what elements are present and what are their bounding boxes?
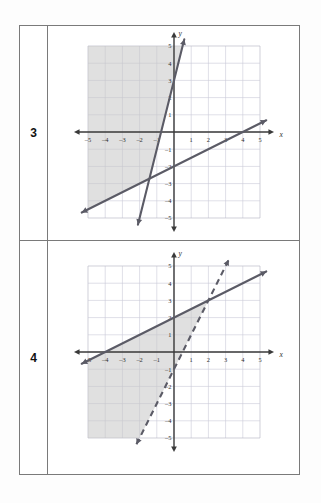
- x-tick-label: –4: [101, 356, 109, 363]
- y-tick-label: –3: [164, 180, 171, 187]
- x-axis-arrow-right: [268, 129, 274, 135]
- row-number-cell: 4: [20, 241, 48, 475]
- x-tick-label: –4: [101, 136, 109, 143]
- y-tick-label: 3: [168, 77, 171, 84]
- y-tick-label: 1: [168, 331, 171, 338]
- y-tick-label: –3: [164, 400, 171, 407]
- x-tick-label: –5: [83, 136, 90, 143]
- x-tick-label: 4: [241, 136, 245, 143]
- y-axis-arrow-up: [171, 252, 177, 258]
- row-number-label: 3: [30, 126, 37, 140]
- x-tick-label: –2: [135, 136, 142, 143]
- worksheet-table: 3 –5–4–3–2–112345–5–4–3–2–112345xy 4 –5–…: [19, 25, 300, 475]
- x-tick-label: 2: [206, 356, 209, 363]
- y-tick-label: 5: [168, 262, 171, 269]
- y-axis-arrow-down: [171, 226, 177, 232]
- x-tick-label: –3: [118, 356, 125, 363]
- y-tick-label: –4: [164, 417, 172, 424]
- coordinate-graph-4: –5–4–3–2–112345–5–4–3–2–112345xy: [54, 241, 294, 463]
- table-row: 3 –5–4–3–2–112345–5–4–3–2–112345xy: [20, 26, 299, 241]
- row-number-label: 4: [30, 351, 37, 365]
- worksheet-page: 3 –5–4–3–2–112345–5–4–3–2–112345xy 4 –5–…: [0, 0, 321, 503]
- x-axis-arrow-left: [73, 349, 79, 355]
- y-tick-label: 5: [168, 42, 171, 49]
- x-tick-label: –1: [152, 356, 159, 363]
- y-axis-arrow-down: [171, 446, 177, 452]
- x-axis-arrow-right: [268, 349, 274, 355]
- table-row: 4 –5–4–3–2–112345–5–4–3–2–112345xy: [20, 241, 299, 475]
- x-axis-arrow-left: [73, 129, 79, 135]
- x-axis-label: x: [278, 350, 283, 359]
- y-tick-label: –1: [164, 146, 171, 153]
- y-tick-label: –5: [164, 434, 171, 441]
- x-tick-label: 5: [258, 136, 261, 143]
- x-tick-label: 4: [241, 356, 245, 363]
- x-tick-label: 1: [189, 136, 192, 143]
- x-tick-label: 3: [223, 356, 226, 363]
- y-tick-label: –4: [164, 197, 172, 204]
- x-axis-label: x: [278, 130, 283, 139]
- graph-cell-3: –5–4–3–2–112345–5–4–3–2–112345xy: [48, 26, 299, 240]
- x-tick-label: 1: [189, 356, 192, 363]
- row-number-cell: 3: [20, 26, 48, 240]
- y-axis-label: y: [177, 29, 182, 38]
- coordinate-graph-3: –5–4–3–2–112345–5–4–3–2–112345xy: [54, 26, 294, 238]
- x-tick-label: 2: [206, 136, 209, 143]
- y-axis-arrow-up: [171, 32, 177, 38]
- y-tick-label: –5: [164, 214, 171, 221]
- graph-cell-4: –5–4–3–2–112345–5–4–3–2–112345xy: [48, 241, 299, 475]
- x-tick-label: –2: [135, 356, 142, 363]
- y-tick-label: 1: [168, 111, 171, 118]
- y-axis-label: y: [177, 249, 182, 258]
- x-tick-label: 5: [258, 356, 261, 363]
- x-tick-label: –3: [118, 136, 125, 143]
- y-tick-label: 3: [168, 297, 171, 304]
- y-tick-label: –1: [164, 366, 171, 373]
